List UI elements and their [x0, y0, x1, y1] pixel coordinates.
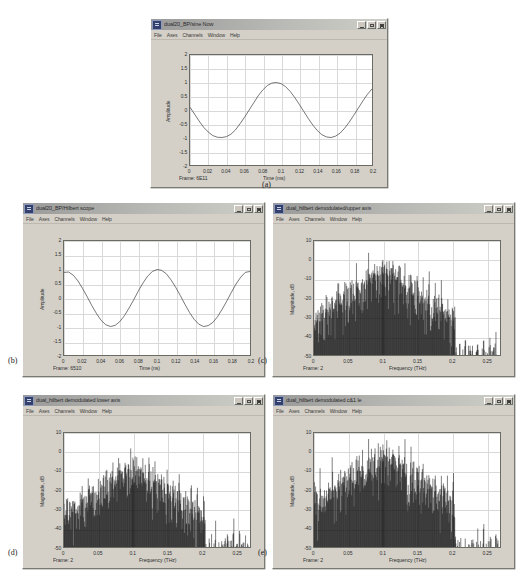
menu-item-channels[interactable]: Channels [304, 215, 324, 223]
menu-item-help[interactable]: Help [352, 407, 362, 415]
minimize-button[interactable] [234, 397, 243, 405]
maximize-button[interactable] [244, 397, 253, 405]
maximize-button[interactable] [494, 397, 503, 405]
x-tick-label: 0.06 [110, 359, 128, 364]
minimize-button[interactable] [357, 21, 366, 29]
menu-item-channels[interactable]: Channels [182, 31, 202, 39]
y-tick-label: 10 [296, 430, 311, 435]
menu-item-help[interactable]: Help [230, 31, 240, 39]
minimize-button[interactable] [484, 205, 493, 213]
minimize-button[interactable] [234, 205, 243, 213]
plot-trace-a [190, 55, 372, 165]
titlebar-b[interactable]: dual20_BP/Hilbert scope [23, 203, 264, 214]
y-tick-label: 10 [296, 238, 311, 243]
window-title-a: dual20_BP/sine Now [164, 20, 354, 29]
window-title-d: dual_hilbert demodulated lower axis [36, 396, 231, 405]
x-tick-label: 0.1 [124, 551, 142, 556]
y-tick-label: 0 [46, 296, 61, 301]
titlebar-d[interactable]: dual_hilbert demodulated lower axis [23, 395, 264, 406]
close-button[interactable] [254, 397, 263, 405]
menu-item-window[interactable]: Window [330, 215, 347, 223]
menu-item-help[interactable]: Help [102, 215, 112, 223]
titlebar-e[interactable]: dual_hilbert demodulated c&1 le [273, 395, 514, 406]
x-tick-label: 0.15 [408, 359, 426, 364]
window-controls-b [234, 205, 263, 213]
menu-item-window[interactable]: Window [80, 407, 97, 415]
window-title-b: dual20_BP/Hilbert scope [36, 204, 231, 213]
x-tick-label: 0.02 [198, 169, 216, 174]
subfigure-caption-a: (a) [262, 180, 271, 189]
x-tick-label: 0.2 [443, 551, 461, 556]
menu-item-window[interactable]: Window [330, 407, 347, 415]
frame-status-d: Frame: 2 [53, 557, 73, 563]
menu-item-axes[interactable]: Axes [289, 215, 300, 223]
menu-item-axes[interactable]: Axes [39, 215, 50, 223]
titlebar-c[interactable]: dual_hilbert demodulated/upper axis [273, 203, 514, 214]
maximize-button[interactable] [244, 205, 253, 213]
y-tick-label: 1 [46, 267, 61, 272]
menu-item-file[interactable]: File [276, 215, 284, 223]
subfigure-caption-c: (c) [258, 356, 267, 365]
y-axis-label-e: Magnitude, dB [289, 476, 295, 507]
y-axis-label-d: Magnitude, dB [39, 476, 45, 507]
y-axis-label-c: Magnitude, dB [289, 284, 295, 315]
x-tick-label: 0.25 [478, 551, 496, 556]
x-tick-label: 0 [54, 551, 72, 556]
x-tick-label: 0.16 [327, 169, 345, 174]
menu-item-help[interactable]: Help [352, 215, 362, 223]
x-tick-label: 0.1 [374, 359, 392, 364]
titlebar-a[interactable]: dual20_BP/sine Now [151, 19, 387, 30]
menu-item-axes[interactable]: Axes [39, 407, 50, 415]
menu-item-channels[interactable]: Channels [54, 215, 74, 223]
frame-status-b: Frame: 6510 [53, 365, 81, 371]
frame-status-c: Frame: 2 [303, 365, 323, 371]
scope-icon [24, 204, 34, 214]
y-tick-label: -30 [46, 507, 61, 512]
scope-icon [152, 20, 162, 30]
menu-item-channels[interactable]: Channels [304, 407, 324, 415]
maximize-button[interactable] [367, 21, 376, 29]
x-axis-label-d: Frequency (THz) [139, 557, 176, 563]
menu-item-file[interactable]: File [154, 31, 162, 39]
y-tick-label: 0 [296, 449, 311, 454]
menu-item-file[interactable]: File [276, 407, 284, 415]
menu-item-channels[interactable]: Channels [54, 407, 74, 415]
maximize-button[interactable] [494, 205, 503, 213]
menu-item-file[interactable]: File [26, 407, 34, 415]
y-tick-label: 1.5 [46, 252, 61, 257]
y-tick-label: -10 [296, 276, 311, 281]
x-tick-label: 0.08 [129, 359, 147, 364]
x-tick-label: 0.18 [223, 359, 241, 364]
plot-area-e [313, 432, 501, 548]
frame-status-a: Frame: 6E11 [179, 175, 208, 181]
y-tick-label: 1.5 [172, 66, 187, 71]
x-tick-label: 0.05 [339, 359, 357, 364]
x-tick-label: 0.12 [290, 169, 308, 174]
scope-body-c: 100-10-20-30-40-5000.050.10.150.20.25Mag… [273, 224, 514, 377]
plot-area-c [313, 240, 501, 356]
y-tick-label: -40 [46, 526, 61, 531]
y-tick-label: -1 [46, 325, 61, 330]
x-tick-label: 0 [180, 169, 198, 174]
window-controls-d [234, 397, 263, 405]
menu-item-axes[interactable]: Axes [167, 31, 178, 39]
menu-item-window[interactable]: Window [208, 31, 225, 39]
scope-window-e: dual_hilbert demodulated c&1 leFileAxesC… [272, 394, 515, 569]
menu-item-window[interactable]: Window [80, 215, 97, 223]
menu-item-axes[interactable]: Axes [289, 407, 300, 415]
close-button[interactable] [504, 205, 513, 213]
menu-item-file[interactable]: File [26, 215, 34, 223]
y-tick-label: -10 [46, 468, 61, 473]
scope-icon [24, 396, 34, 406]
close-button[interactable] [254, 205, 263, 213]
scope-window-d: dual_hilbert demodulated lower axisFileA… [22, 394, 265, 569]
y-tick-label: -10 [296, 468, 311, 473]
y-axis-label-b: Amplitude [39, 288, 45, 309]
minimize-button[interactable] [484, 397, 493, 405]
y-tick-label: -1.5 [172, 150, 187, 155]
menu-item-help[interactable]: Help [102, 407, 112, 415]
scope-icon [274, 204, 284, 214]
close-button[interactable] [504, 397, 513, 405]
y-tick-label: -20 [296, 296, 311, 301]
close-button[interactable] [377, 21, 386, 29]
